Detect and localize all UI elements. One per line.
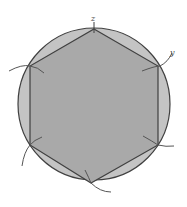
label-z: z	[90, 14, 96, 23]
label-y: y	[169, 48, 175, 57]
hexagon-construction-diagram: z y	[0, 0, 187, 207]
